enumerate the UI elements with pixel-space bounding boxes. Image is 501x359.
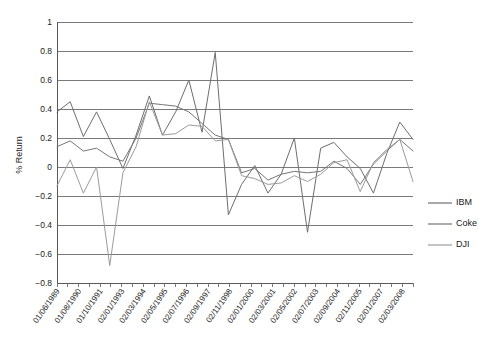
- line-chart: 10.80.60.40.20−0.2−0.4−0.6−0.8 01/06/198…: [0, 0, 501, 359]
- y-tick-label: 1: [47, 17, 52, 27]
- gridlines: [57, 22, 413, 283]
- series-line-coke: [57, 103, 413, 184]
- legend-label-dji: DJI: [456, 239, 470, 249]
- y-tick-label: −0.4: [35, 220, 52, 230]
- data-series: [57, 52, 413, 265]
- axis-lines: [57, 22, 413, 283]
- y-tick-label: 0.6: [40, 75, 52, 85]
- chart-canvas: 10.80.60.40.20−0.2−0.4−0.6−0.8 01/06/198…: [0, 0, 501, 359]
- y-axis-tick-labels: 10.80.60.40.20−0.2−0.4−0.6−0.8: [35, 17, 52, 288]
- series-line-ibm: [57, 52, 413, 232]
- chart-legend: IBMCokeDJI: [428, 197, 477, 249]
- x-axis-tickmarks: [57, 283, 413, 287]
- y-tick-label: −0.8: [35, 278, 52, 288]
- y-tick-label: −0.2: [35, 191, 52, 201]
- x-axis-tick-labels: 01/06/198901/08/199001/10/199102/01/1993…: [31, 287, 407, 325]
- y-tick-label: 0.4: [40, 104, 52, 114]
- y-tick-label: 0.8: [40, 46, 52, 56]
- y-tick-label: 0.2: [40, 133, 52, 143]
- y-tick-label: 0: [47, 162, 52, 172]
- legend-label-ibm: IBM: [456, 197, 472, 207]
- y-axis-title: % Return: [14, 136, 24, 174]
- legend-label-coke: Coke: [456, 218, 477, 228]
- y-tick-label: −0.6: [35, 249, 52, 259]
